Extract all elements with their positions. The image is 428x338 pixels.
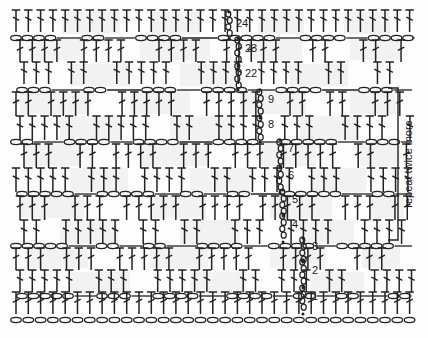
double-crochet-icon	[282, 62, 290, 84]
double-crochet-icon	[135, 196, 143, 220]
double-crochet-icon	[117, 40, 125, 62]
double-crochet-icon	[383, 270, 391, 292]
double-crochet-icon	[86, 292, 94, 314]
double-crochet-icon	[40, 270, 48, 292]
double-crochet-icon	[309, 40, 317, 62]
chain-stitch-icon	[280, 226, 285, 232]
double-crochet-icon	[98, 292, 106, 314]
chain-stitch-icon	[278, 171, 283, 177]
double-crochet-icon	[379, 168, 387, 192]
tint-block	[190, 272, 246, 294]
double-crochet-icon	[20, 220, 28, 244]
double-crochet-icon	[386, 62, 394, 84]
double-crochet-icon	[353, 196, 361, 220]
double-crochet-icon	[149, 62, 157, 84]
chain-stitch-icon	[380, 317, 391, 322]
double-crochet-icon	[405, 10, 413, 32]
tint-block	[360, 142, 400, 166]
tint-block	[62, 12, 120, 34]
chain-stitch-icon	[109, 191, 120, 196]
double-crochet-icon	[209, 292, 217, 314]
chain-stitch-icon	[294, 317, 305, 322]
double-crochet-icon	[61, 168, 69, 192]
double-crochet-icon	[244, 248, 252, 270]
double-crochet-icon	[32, 220, 40, 244]
chain-stitch-icon	[336, 293, 347, 298]
chain-stitch-icon	[343, 317, 354, 322]
repeat-bracket-label: repeat twice more	[402, 120, 414, 207]
chain-stitch-icon	[99, 139, 110, 144]
chain-stitch-icon	[35, 317, 46, 322]
double-crochet-icon	[24, 168, 32, 192]
double-crochet-icon	[328, 144, 336, 168]
double-crochet-icon	[95, 196, 103, 220]
chain-stitch-icon	[60, 317, 71, 322]
double-crochet-icon	[16, 40, 24, 62]
double-crochet-icon	[135, 292, 143, 314]
double-crochet-icon	[177, 168, 185, 192]
double-crochet-icon	[87, 248, 95, 270]
double-crochet-icon	[153, 168, 161, 192]
double-crochet-icon	[221, 10, 229, 32]
chain-stitch-icon	[257, 317, 268, 322]
tint-block	[150, 194, 206, 218]
double-crochet-icon	[83, 196, 91, 220]
double-crochet-icon	[124, 144, 132, 168]
chain-stitch-icon	[17, 293, 28, 298]
turning-chain-join	[259, 141, 262, 144]
chain-stitch-icon	[208, 317, 219, 322]
chain-stitch-icon	[227, 30, 232, 36]
double-crochet-icon	[338, 92, 346, 116]
chain-stitch-icon	[195, 317, 206, 322]
double-crochet-icon	[370, 270, 378, 292]
chain-stitch-icon	[63, 293, 74, 298]
double-crochet-icon	[319, 292, 327, 314]
double-crochet-icon	[356, 292, 364, 314]
double-crochet-icon	[223, 196, 231, 220]
chain-stitch-icon	[258, 134, 263, 140]
double-crochet-icon	[104, 40, 112, 62]
double-crochet-icon	[326, 92, 334, 116]
double-crochet-icon	[367, 168, 375, 192]
double-crochet-icon	[36, 10, 44, 32]
double-crochet-icon	[396, 92, 404, 116]
double-crochet-icon	[128, 248, 136, 270]
double-crochet-icon	[209, 10, 217, 32]
double-crochet-icon	[202, 92, 210, 116]
double-crochet-icon	[232, 248, 240, 270]
chain-stitch-icon	[108, 243, 119, 248]
chain-stitch-icon	[355, 317, 366, 322]
crochet-stitch-diagram: repeat twice more123456789222324	[0, 0, 428, 338]
tint-block	[170, 116, 234, 140]
row-number-label-9: 9	[268, 93, 274, 105]
chain-stitch-icon	[239, 191, 250, 196]
tint-block	[70, 272, 130, 294]
chain-stitch-icon	[400, 293, 411, 298]
double-crochet-icon	[139, 220, 147, 244]
double-crochet-icon	[215, 92, 223, 116]
double-crochet-icon	[319, 10, 327, 32]
tint-block	[190, 168, 250, 192]
chain-stitch-icon	[257, 128, 262, 134]
chain-stitch-icon	[301, 304, 306, 310]
double-crochet-icon	[282, 292, 290, 314]
stitch-band	[12, 292, 414, 314]
double-crochet-icon	[307, 10, 315, 32]
double-crochet-icon	[12, 292, 20, 314]
double-crochet-icon	[16, 116, 24, 140]
chain-stitch-icon	[348, 293, 359, 298]
double-crochet-icon	[378, 116, 386, 140]
turning-chain-join	[237, 65, 240, 68]
double-crochet-icon	[116, 248, 124, 270]
chain-stitch-icon	[183, 317, 194, 322]
double-crochet-icon	[239, 116, 247, 140]
row-number-label-2: 2	[312, 264, 318, 276]
double-crochet-icon	[53, 270, 61, 292]
double-crochet-icon	[12, 248, 20, 270]
chain-stitch-icon	[244, 317, 255, 322]
chain-stitch-icon	[146, 317, 157, 322]
chain-stitch-icon	[331, 317, 342, 322]
double-crochet-icon	[373, 62, 381, 84]
chain-stitch-icon	[300, 272, 305, 278]
turning-chain-join	[302, 313, 305, 316]
